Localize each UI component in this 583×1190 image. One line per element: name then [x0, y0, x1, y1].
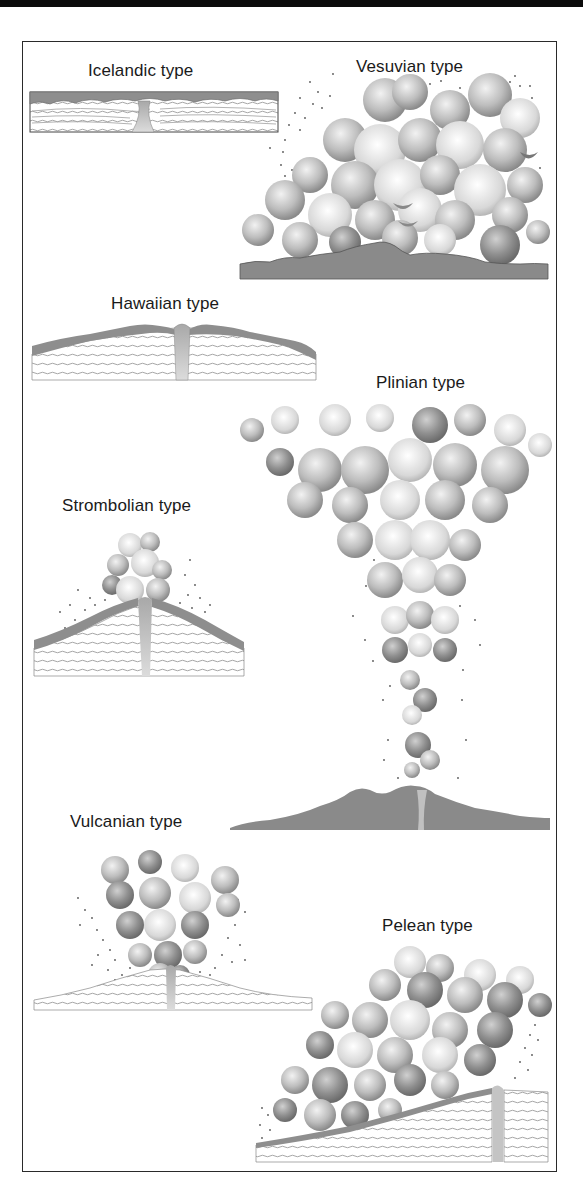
strombolian-diagram	[34, 532, 244, 676]
eruption-illustrations	[0, 0, 583, 1190]
hawaiian-label: Hawaiian type	[111, 294, 219, 314]
vesuvian-label: Vesuvian type	[356, 57, 463, 77]
vulcanian-label: Vulcanian type	[70, 812, 182, 832]
icelandic-diagram	[30, 92, 278, 132]
plinian-label: Plinian type	[376, 373, 465, 393]
hawaiian-diagram	[32, 324, 316, 380]
strombolian-label: Strombolian type	[62, 496, 191, 516]
vulcanian-diagram	[34, 850, 312, 1010]
plinian-diagram	[230, 404, 552, 830]
pelean-label: Pelean type	[382, 916, 473, 936]
pelean-diagram	[256, 946, 552, 1162]
vesuvian-diagram	[240, 73, 550, 279]
icelandic-label: Icelandic type	[88, 61, 193, 81]
